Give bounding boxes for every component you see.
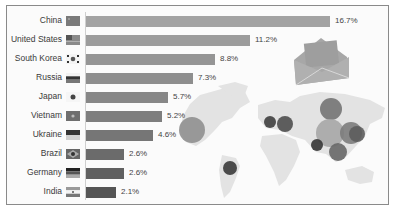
bar [86, 16, 330, 27]
bar [86, 54, 215, 65]
bar [86, 73, 193, 84]
country-label: South Korea [15, 53, 62, 63]
china-flag-icon [66, 16, 80, 26]
bar-row: China16.7% [0, 12, 394, 31]
bar [86, 149, 124, 160]
bar [86, 168, 124, 179]
russia-flag-icon [66, 73, 80, 83]
bar-row: Vietnam5.2% [0, 107, 394, 126]
south-korea-flag-icon [66, 54, 80, 64]
country-label: Vietnam [31, 110, 62, 120]
value-label: 5.7% [173, 92, 191, 101]
country-label: Brazil [41, 148, 62, 158]
bar-row: Russia7.3% [0, 69, 394, 88]
bar [86, 111, 162, 122]
country-label: Germany [27, 167, 62, 177]
bar-row: Japan5.7% [0, 88, 394, 107]
bar [86, 187, 116, 198]
value-label: 2.1% [121, 187, 139, 196]
germany-flag-icon [66, 168, 80, 178]
bar [86, 35, 250, 46]
value-label: 11.2% [255, 35, 277, 44]
japan-flag-icon [66, 92, 80, 102]
country-label: Ukraine [33, 129, 62, 139]
value-label: 8.8% [220, 54, 238, 63]
bar [86, 130, 153, 141]
brazil-flag-icon [66, 149, 80, 159]
country-label: Japan [39, 91, 62, 101]
value-label: 5.2% [167, 111, 185, 120]
country-label: Russia [36, 72, 62, 82]
united-states-flag-icon [66, 35, 80, 45]
country-label: China [40, 15, 62, 25]
bar-row: Germany2.6% [0, 164, 394, 183]
bar-row: United States11.2% [0, 31, 394, 50]
bar-row: Ukraine4.6% [0, 126, 394, 145]
bar-row: Brazil2.6% [0, 145, 394, 164]
vietnam-flag-icon [66, 111, 80, 121]
country-label: United States [11, 34, 62, 44]
country-label: India [44, 186, 62, 196]
value-label: 16.7% [335, 16, 358, 25]
bar-row: India2.1% [0, 183, 394, 202]
value-label: 4.6% [158, 130, 176, 139]
value-label: 2.6% [129, 168, 147, 177]
india-flag-icon [66, 187, 80, 197]
value-label: 2.6% [129, 149, 147, 158]
value-label: 7.3% [198, 73, 216, 82]
bar [86, 92, 168, 103]
ukraine-flag-icon [66, 130, 80, 140]
bar-row: South Korea8.8% [0, 50, 394, 69]
